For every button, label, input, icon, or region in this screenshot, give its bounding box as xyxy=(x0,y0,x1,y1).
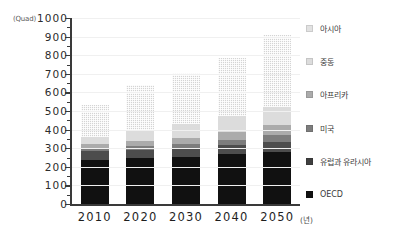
y-axis-minor-tick-mark xyxy=(67,46,71,47)
gridline xyxy=(72,55,300,56)
bar-segment xyxy=(81,105,109,137)
y-axis-minor-tick-mark xyxy=(67,83,71,84)
legend-item-label: 유럽과 유라시아 xyxy=(320,156,371,167)
y-axis-minor-tick-mark xyxy=(67,158,71,159)
y-axis-tick-labels: 01002003004005006007008009001000 xyxy=(24,12,68,206)
y-axis-tick-mark xyxy=(65,148,70,149)
gridline xyxy=(72,111,300,112)
y-axis-tick-mark xyxy=(65,204,70,205)
gridline xyxy=(72,74,300,75)
bar-segment xyxy=(218,58,246,116)
bar-segment xyxy=(172,157,200,204)
gridline xyxy=(72,37,300,38)
y-axis-tick-mark xyxy=(65,55,70,56)
bar-stack xyxy=(81,105,109,204)
bar-segment xyxy=(81,151,109,160)
gridline xyxy=(72,130,300,131)
y-axis-minor-tick-mark xyxy=(67,176,71,177)
gridline xyxy=(72,92,300,93)
legend-item-label: 중동 xyxy=(320,56,334,67)
bar-segment xyxy=(263,142,291,152)
y-axis-minor-tick-mark xyxy=(67,27,71,28)
gridline xyxy=(72,185,300,186)
legend-item[interactable]: OECD xyxy=(306,190,408,199)
gridline xyxy=(72,167,300,168)
legend-item[interactable]: 유럽과 유라시아 xyxy=(306,157,408,166)
y-axis-tick-label: 1000 xyxy=(37,13,68,23)
y-axis-tick-mark xyxy=(65,130,70,131)
bar-segment xyxy=(263,135,291,142)
stacked-bar-chart: (Quad) 01002003004005006007008009001000 … xyxy=(0,0,410,250)
y-axis-tick-mark xyxy=(65,185,70,186)
x-axis-tick-label: 2050 xyxy=(249,210,305,224)
bar-segment xyxy=(172,149,200,157)
bar-segment xyxy=(263,35,291,108)
bar-segment xyxy=(263,152,291,204)
legend-item[interactable]: 중동 xyxy=(306,57,408,66)
y-axis-tick-mark xyxy=(65,18,70,19)
gridline xyxy=(72,148,300,149)
legend-item[interactable]: 아프리카 xyxy=(306,90,408,99)
bar-stack xyxy=(218,58,246,204)
y-axis-minor-tick-mark xyxy=(67,102,71,103)
chart-legend: 아시아중동아프리카미국유럽과 유라시아OECD xyxy=(306,24,408,223)
bar-segment xyxy=(126,158,154,205)
x-axis-tick-labels: 20102020203020402050 xyxy=(72,210,300,230)
y-axis-minor-tick-mark xyxy=(67,120,71,121)
legend-swatch-icon xyxy=(306,125,313,132)
bar-segment xyxy=(81,137,109,145)
legend-swatch-icon xyxy=(306,158,313,165)
x-axis-line xyxy=(70,204,300,206)
bar-segment xyxy=(218,132,246,139)
y-axis-tick-mark xyxy=(65,167,70,168)
legend-item-label: 아시아 xyxy=(320,23,341,34)
y-axis-minor-tick-mark xyxy=(67,139,71,140)
legend-item-label: 미국 xyxy=(320,123,334,134)
gridline xyxy=(72,18,300,19)
bar-segment xyxy=(126,130,154,141)
bar-segment xyxy=(172,124,200,138)
legend-swatch-icon xyxy=(306,25,313,32)
legend-item-label: 아프리카 xyxy=(320,89,348,100)
bar-segment xyxy=(218,154,246,204)
y-axis-tick-mark xyxy=(65,111,70,112)
legend-item-label: OECD xyxy=(320,190,343,199)
legend-item[interactable]: 아시아 xyxy=(306,24,408,33)
legend-swatch-icon xyxy=(306,91,313,98)
y-axis-minor-tick-mark xyxy=(67,195,71,196)
legend-swatch-icon xyxy=(306,58,313,65)
y-axis-tick-mark xyxy=(65,37,70,38)
legend-item[interactable]: 미국 xyxy=(306,124,408,133)
legend-swatch-icon xyxy=(306,191,313,198)
y-axis-tick-mark xyxy=(65,92,70,93)
bar-segment xyxy=(263,107,291,125)
y-axis-minor-tick-mark xyxy=(67,65,71,66)
bar-segment xyxy=(172,73,200,124)
bar-stack xyxy=(263,35,291,204)
y-axis-tick-mark xyxy=(65,74,70,75)
bar-segment xyxy=(126,150,154,158)
bar-segment xyxy=(218,145,246,154)
